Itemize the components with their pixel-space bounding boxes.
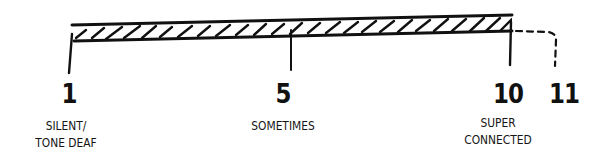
label-line: SOMETIMES — [251, 117, 314, 134]
tick-label-10: SUPER CONNECTED — [464, 114, 531, 148]
tick-label-1: SILENT/ TONE DEAF — [35, 117, 96, 151]
label-line: SUPER — [464, 114, 531, 131]
label-line: SILENT/ — [35, 117, 96, 134]
tick-10 — [510, 22, 511, 65]
label-line: TONE DEAF — [35, 134, 96, 151]
dashed-extension — [516, 31, 556, 66]
tick-value-10: 10 — [493, 80, 523, 107]
label-line: CONNECTED — [464, 131, 531, 148]
tick-value-5: 5 — [275, 80, 290, 107]
tick-value-11: 11 — [549, 80, 579, 107]
tick-value-1: 1 — [61, 80, 76, 107]
tick-1 — [69, 34, 72, 73]
tick-label-5: SOMETIMES — [251, 117, 314, 134]
